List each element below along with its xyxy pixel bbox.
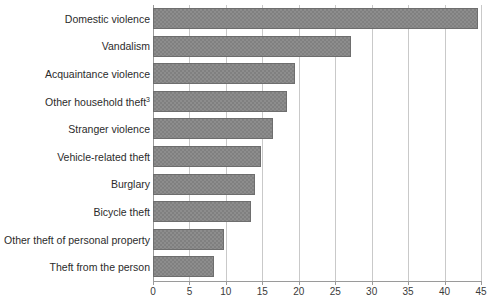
category-label: Theft from the person xyxy=(0,261,150,273)
bar-row xyxy=(153,60,481,88)
category-label-text: Burglary xyxy=(111,178,150,190)
bar xyxy=(153,146,261,167)
bar-chart: 051015202530354045 Domestic violenceVand… xyxy=(0,0,496,302)
bar xyxy=(153,229,224,250)
bar xyxy=(153,201,251,222)
tick-mark-0 xyxy=(153,281,154,285)
gridline-45 xyxy=(481,5,482,281)
category-label-text: Domestic violence xyxy=(65,13,150,25)
bar-row xyxy=(153,198,481,226)
tick-mark-30 xyxy=(372,281,373,285)
bar xyxy=(153,91,287,112)
x-tick-label: 5 xyxy=(174,286,204,298)
bar-row xyxy=(153,5,481,33)
category-label: Stranger violence xyxy=(0,123,150,135)
category-label: Bicycle theft xyxy=(0,206,150,218)
bar-row xyxy=(153,115,481,143)
bar xyxy=(153,63,295,84)
category-label: Other theft of personal property xyxy=(0,234,150,246)
x-tick-label: 35 xyxy=(393,286,423,298)
bar-row xyxy=(153,143,481,171)
tick-mark-45 xyxy=(481,281,482,285)
x-tick-label: 45 xyxy=(466,286,496,298)
tick-mark-40 xyxy=(445,281,446,285)
category-label-text: Theft from the person xyxy=(50,261,150,273)
bar xyxy=(153,36,351,57)
bar-row xyxy=(153,253,481,281)
x-axis-line xyxy=(153,281,482,282)
bar xyxy=(153,118,273,139)
x-tick-label: 40 xyxy=(430,286,460,298)
category-label-text: Stranger violence xyxy=(68,123,150,135)
tick-mark-5 xyxy=(189,281,190,285)
bar xyxy=(153,256,214,277)
bar-row xyxy=(153,33,481,61)
category-label-text: Other theft of personal property xyxy=(4,234,150,246)
x-tick-label: 15 xyxy=(247,286,277,298)
category-label-text: Bicycle theft xyxy=(93,206,150,218)
bar xyxy=(153,174,255,195)
category-label-text: Acquaintance violence xyxy=(45,68,150,80)
x-tick-label: 10 xyxy=(211,286,241,298)
category-label: Domestic violence xyxy=(0,13,150,25)
tick-mark-25 xyxy=(335,281,336,285)
bar-row xyxy=(153,88,481,116)
x-tick-label: 25 xyxy=(320,286,350,298)
category-label: Burglary xyxy=(0,178,150,190)
bar-row xyxy=(153,226,481,254)
category-label: Other household theft3 xyxy=(0,96,150,108)
x-tick-label: 20 xyxy=(284,286,314,298)
category-label-text: Other household theft xyxy=(45,96,146,108)
category-label-footnote: 3 xyxy=(146,95,150,102)
category-label-text: Vandalism xyxy=(102,40,150,52)
category-label: Vandalism xyxy=(0,40,150,52)
category-label-text: Vehicle-related theft xyxy=(57,151,150,163)
tick-mark-20 xyxy=(299,281,300,285)
x-tick-label: 30 xyxy=(357,286,387,298)
category-label: Acquaintance violence xyxy=(0,68,150,80)
bar-row xyxy=(153,171,481,199)
tick-mark-35 xyxy=(408,281,409,285)
tick-mark-10 xyxy=(226,281,227,285)
bar xyxy=(153,8,478,29)
tick-mark-15 xyxy=(262,281,263,285)
category-label: Vehicle-related theft xyxy=(0,151,150,163)
x-tick-label: 0 xyxy=(138,286,168,298)
